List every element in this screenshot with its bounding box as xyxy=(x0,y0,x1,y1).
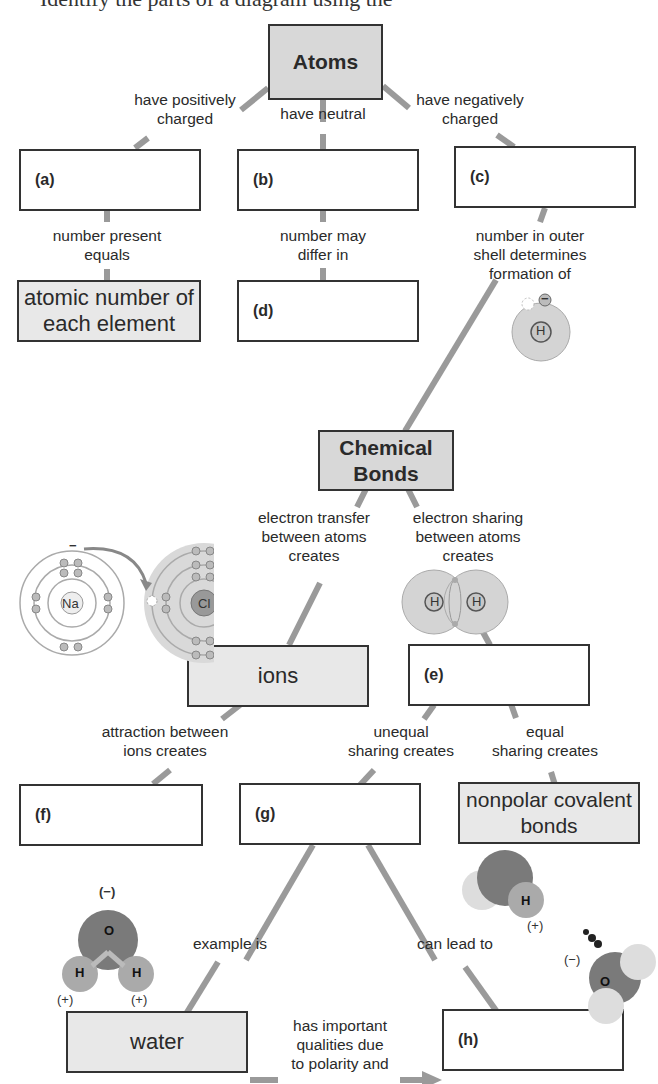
water-neg-charge: (−) xyxy=(99,884,115,899)
link-number-present: number present equals xyxy=(32,226,182,264)
link-neutral: have neutral xyxy=(258,104,388,123)
link-outer-shell: number in outer shell determines formati… xyxy=(455,226,605,283)
water-h1-symbol: H xyxy=(75,965,84,980)
link-electron-transfer: electron transfer between atoms creates xyxy=(239,508,389,565)
node-ions: ions xyxy=(187,645,369,707)
link-electron-sharing: electron sharing between atoms creates xyxy=(393,508,543,565)
node-chemical-bonds: Chemical Bonds xyxy=(318,430,454,491)
link-unequal: unequal sharing creates xyxy=(336,722,466,760)
water-pos2-charge: (+) xyxy=(131,992,147,1007)
water-o-symbol: O xyxy=(104,923,114,938)
link-positively-charged: have positively charged xyxy=(110,90,260,128)
node-c-blank[interactable]: (c) xyxy=(454,146,636,208)
node-atomic-number: atomic number of each element xyxy=(17,280,201,342)
water-molecule-illustration xyxy=(54,902,164,1002)
node-d-blank[interactable]: (d) xyxy=(237,280,419,342)
hbond-o-symbol: O xyxy=(600,974,610,989)
link-example-is: example is xyxy=(180,934,280,953)
hbond-h-symbol: H xyxy=(521,893,530,908)
water-h2-symbol: H xyxy=(132,965,141,980)
h-atom-charge: − xyxy=(541,291,549,306)
nacl-electron-charge: − xyxy=(69,538,77,553)
node-g-blank[interactable]: (g) xyxy=(239,783,421,845)
cl-symbol: Cl xyxy=(198,596,210,611)
water-pos1-charge: (+) xyxy=(57,992,73,1007)
hbond-pos-charge: (+) xyxy=(527,918,543,933)
link-attraction: attraction between ions creates xyxy=(90,722,240,760)
h-atom-symbol: H xyxy=(536,323,545,338)
h2-left-symbol: H xyxy=(430,594,439,609)
link-qualities: has important qualities due to polarity … xyxy=(278,1016,402,1073)
node-atoms: Atoms xyxy=(268,24,383,100)
link-number-may-differ: number may differ in xyxy=(248,226,398,264)
node-b-blank[interactable]: (b) xyxy=(237,149,419,211)
na-symbol: Na xyxy=(62,596,79,611)
node-nonpolar: nonpolar covalent bonds xyxy=(458,782,640,844)
hbond-neg-charge: (−) xyxy=(564,952,580,967)
nacl-transfer-illustration xyxy=(14,543,214,663)
node-water: water xyxy=(66,1011,248,1073)
node-a-blank[interactable]: (a) xyxy=(19,149,201,211)
hydrogen-bond-illustration xyxy=(460,848,658,1028)
node-f-blank[interactable]: (f) xyxy=(19,784,203,846)
h2-right-symbol: H xyxy=(472,594,481,609)
h2-molecule-illustration xyxy=(400,568,510,636)
node-e-blank[interactable]: (e) xyxy=(408,644,590,706)
link-negatively-charged: have negatively charged xyxy=(395,90,545,128)
link-equal: equal sharing creates xyxy=(480,722,610,760)
